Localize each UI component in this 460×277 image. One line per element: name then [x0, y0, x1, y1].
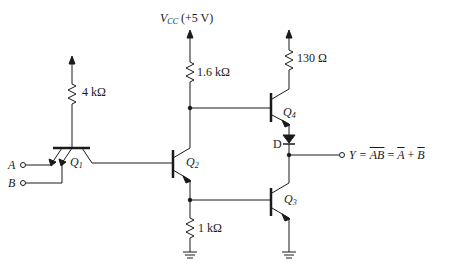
resistor-1k-icon: [186, 200, 194, 252]
resistor-4k-icon: [68, 80, 76, 148]
q3-label: Q3: [284, 193, 297, 207]
output-y-terminal[interactable]: [340, 153, 345, 158]
q4-supply-arrow-icon: [286, 30, 292, 46]
input-b-terminal[interactable]: [21, 181, 26, 186]
circuit-schematic: [0, 0, 460, 277]
ttl-nand-circuit-diagram: VCC (+5 V) 4 kΩ 1.6 kΩ 1 kΩ 130 Ω Q1 Q2 …: [0, 0, 460, 277]
q1-emitter-b-arrow-icon: [59, 159, 66, 166]
resistor-1-6k-label: 1.6 kΩ: [197, 66, 230, 78]
input-b-label: B: [8, 177, 15, 189]
input-a-label: A: [8, 159, 15, 171]
vcc-label: VCC (+5 V): [160, 12, 213, 26]
q1-supply-arrow-icon: [69, 56, 75, 80]
diode-icon: [283, 132, 295, 183]
ground-q2-icon: [183, 252, 197, 258]
resistor-1k-label: 1 kΩ: [198, 222, 222, 234]
q1-label: Q1: [70, 156, 83, 170]
output-expression: Y = AB = A + B: [349, 149, 425, 161]
resistor-1-6k-icon: [186, 58, 194, 108]
q2-label: Q2: [186, 156, 199, 170]
resistor-130-icon: [285, 46, 293, 89]
q4-label: Q4: [283, 106, 296, 120]
resistor-4k-label: 4 kΩ: [82, 86, 106, 98]
resistor-130-label: 130 Ω: [297, 52, 327, 64]
diode-label: D: [273, 138, 282, 150]
ground-q3-icon: [282, 252, 296, 258]
input-a-terminal[interactable]: [21, 163, 26, 168]
vcc-arrow-icon: [187, 30, 193, 58]
